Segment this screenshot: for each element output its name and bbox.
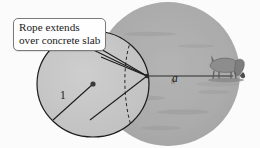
math-figure-goat-on-slab: Rope extends over concrete slab 1 a — [0, 0, 260, 148]
rope-length-label: a — [172, 72, 178, 84]
callout-rope-extends: Rope extends over concrete slab — [13, 18, 106, 51]
callout-line-1: Rope extends — [19, 21, 100, 34]
slab-center-dot — [90, 81, 95, 86]
callout-line-2: over concrete slab — [19, 34, 100, 47]
tether-anchor-point — [145, 74, 149, 78]
goat-shadow — [208, 78, 244, 82]
radius-label: 1 — [60, 89, 66, 101]
